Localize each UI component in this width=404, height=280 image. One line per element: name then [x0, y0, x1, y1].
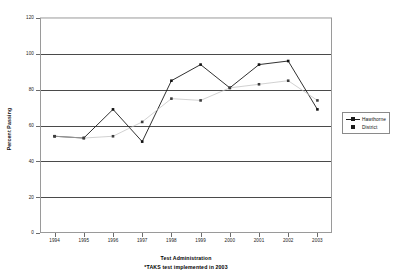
- x-axis-footnote: *TAKS test implemented in 2003: [40, 264, 332, 270]
- x-tick-label-1998: 1998: [156, 238, 186, 243]
- y-tick-label-120: 120: [18, 15, 34, 20]
- legend-label-district: District: [361, 125, 377, 130]
- y-tick-mark-0: [36, 233, 40, 234]
- plot-frame-top-edge: [40, 17, 332, 18]
- legend-swatch-marker-icon: [345, 123, 361, 131]
- x-tick-label-2001: 2001: [244, 238, 274, 243]
- y-tick-label-60: 60: [18, 123, 34, 128]
- x-tick-mark-2001: [259, 233, 260, 237]
- y-axis-title: Percent Passing: [6, 74, 12, 184]
- x-tick-mark-1999: [201, 233, 202, 237]
- x-axis-title: Test Administration: [40, 255, 332, 261]
- y-tick-label-100: 100: [18, 51, 34, 56]
- x-tick-mark-2000: [230, 233, 231, 237]
- x-tick-mark-2002: [288, 233, 289, 237]
- x-tick-mark-1997: [142, 233, 143, 237]
- y-tick-label-40: 40: [18, 159, 34, 164]
- legend-item-hawthorne[interactable]: Hawthorne: [345, 115, 386, 123]
- x-tick-label-2002: 2002: [273, 238, 303, 243]
- y-tick-label-0: 0: [18, 230, 34, 235]
- x-tick-label-2003: 2003: [302, 238, 332, 243]
- x-tick-label-1995: 1995: [69, 238, 99, 243]
- legend-label-hawthorne: Hawthorne: [361, 117, 386, 122]
- legend-swatch-line-marker-icon: [345, 115, 361, 123]
- x-tick-label-1999: 1999: [186, 238, 216, 243]
- x-tick-label-1994: 1994: [40, 238, 70, 243]
- x-tick-mark-1996: [113, 233, 114, 237]
- y-tick-label-80: 80: [18, 87, 34, 92]
- chart-container: Percent Passing 120100806040200 19941995…: [0, 0, 404, 280]
- x-tick-label-1997: 1997: [127, 238, 157, 243]
- legend: Hawthorne District: [342, 112, 390, 134]
- legend-item-district[interactable]: District: [345, 123, 386, 131]
- x-tick-mark-1998: [171, 233, 172, 237]
- x-tick-label-2000: 2000: [215, 238, 245, 243]
- plot-area: [40, 18, 332, 233]
- x-tick-mark-2003: [317, 233, 318, 237]
- x-tick-mark-1995: [84, 233, 85, 237]
- x-tick-mark-1994: [55, 233, 56, 237]
- y-tick-label-20: 20: [18, 195, 34, 200]
- x-tick-label-1996: 1996: [98, 238, 128, 243]
